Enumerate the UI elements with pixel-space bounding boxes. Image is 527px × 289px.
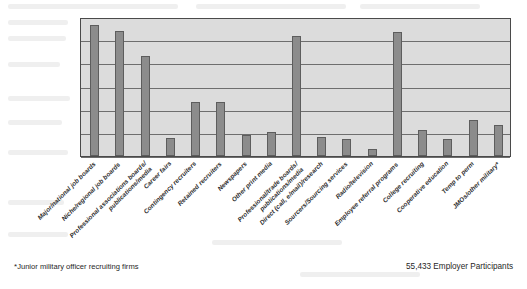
bar (393, 32, 402, 156)
x-axis-label-line1: Retained recruiters (176, 160, 223, 207)
participants-count: 55,433 Employer Participants (406, 262, 513, 271)
bar (267, 132, 276, 156)
bar (469, 120, 478, 156)
bar-chart-figure: Major/national job boardsNiche/regional … (0, 0, 527, 289)
x-axis-label: JMOs/other military* (451, 160, 501, 210)
bar (141, 56, 150, 156)
bar (443, 139, 452, 156)
bar (242, 135, 251, 156)
bar (292, 36, 301, 156)
bar (368, 149, 377, 156)
bar (317, 137, 326, 156)
footnote-text: Junior military officer recruiting firms (17, 262, 138, 271)
bar (494, 125, 503, 156)
x-axis-label-line1: JMOs/other military* (451, 160, 501, 210)
bars-layer (81, 19, 510, 156)
plot-area (80, 18, 511, 157)
x-axis-category-labels: Major/national job boardsNiche/regional … (0, 158, 527, 253)
bar (216, 102, 225, 156)
footnote: *Junior military officer recruiting firm… (14, 262, 139, 271)
bar (90, 25, 99, 156)
bar (342, 139, 351, 156)
bar (115, 31, 124, 156)
bar (418, 130, 427, 156)
bar (191, 102, 200, 156)
bar (166, 138, 175, 156)
